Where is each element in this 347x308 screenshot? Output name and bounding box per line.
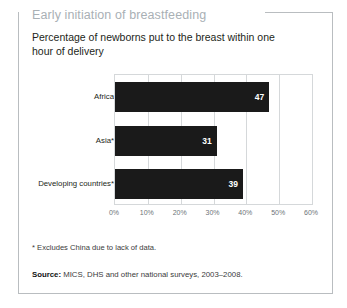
panel-border-left xyxy=(18,12,19,294)
footnote-text: Excludes China due to lack of data. xyxy=(37,243,156,252)
bar-value-label: 47 xyxy=(255,92,264,102)
x-tick-label: 20% xyxy=(173,209,187,216)
bar-chart: AfricaAsia*Developing countries* 473139 … xyxy=(32,74,317,224)
panel-border-top xyxy=(265,12,333,13)
x-tick-label: 60% xyxy=(304,209,318,216)
panel-border-bottom xyxy=(18,293,333,294)
x-tick-label: 30% xyxy=(205,209,219,216)
bar-row: 47 xyxy=(115,82,312,112)
plot-area: 473139 xyxy=(114,74,313,205)
gridline xyxy=(312,75,313,204)
bar-value-label: 31 xyxy=(202,136,211,146)
source-label: Source: xyxy=(32,270,61,279)
category-label: Developing countries* xyxy=(38,179,114,188)
bar-row: 39 xyxy=(115,169,312,199)
footnote-marker: * xyxy=(32,243,35,252)
category-label: Africa xyxy=(38,91,114,100)
panel-border-right xyxy=(332,12,333,294)
bar-value-label: 39 xyxy=(229,179,238,189)
bar: 47 xyxy=(115,82,269,112)
bar: 31 xyxy=(115,126,217,156)
category-axis: AfricaAsia*Developing countries* xyxy=(32,74,114,205)
x-tick-label: 40% xyxy=(238,209,252,216)
page-title: Early initiation of breastfeeding xyxy=(32,8,206,22)
chart-subtitle: Percentage of newborns put to the breast… xyxy=(32,30,282,58)
bar-row: 31 xyxy=(115,126,312,156)
x-tick-label: 50% xyxy=(271,209,285,216)
category-label: Asia* xyxy=(38,135,114,144)
footnote: * Excludes China due to lack of data. xyxy=(32,243,156,252)
x-tick-label: 0% xyxy=(109,209,119,216)
source-line: Source: MICS, DHS and other national sur… xyxy=(32,270,243,279)
chart-panel: Early initiation of breastfeeding Percen… xyxy=(18,8,333,294)
bar: 39 xyxy=(115,169,243,199)
source-text: MICS, DHS and other national surveys, 20… xyxy=(63,270,242,279)
x-tick-label: 10% xyxy=(140,209,154,216)
